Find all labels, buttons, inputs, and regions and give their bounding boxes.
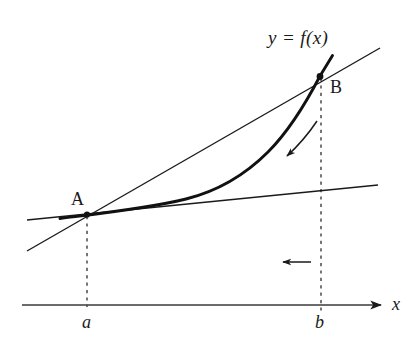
diagram-svg (0, 0, 419, 343)
figure-canvas: y = f(x) A B x a b (0, 0, 419, 343)
x-tick-label-b: b (315, 313, 324, 331)
curved-arrow-to-curve (287, 121, 317, 156)
point-a-label: A (71, 190, 84, 208)
x-tick-label-a: a (82, 313, 91, 331)
point-marker-a (84, 211, 90, 217)
point-marker-b (317, 73, 324, 80)
curve-equation-label: y = f(x) (268, 28, 328, 47)
x-axis-label: x (392, 295, 400, 313)
point-b-label: B (330, 78, 342, 96)
secant-line-ab (27, 48, 380, 251)
